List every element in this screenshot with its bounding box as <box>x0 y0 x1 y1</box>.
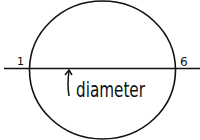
label-right-6: 6 <box>180 55 188 69</box>
arrow-icon <box>65 70 72 96</box>
diameter-label: diameter <box>76 78 145 102</box>
circle <box>30 1 176 139</box>
label-left-1: 1 <box>17 55 24 68</box>
diameter-diagram: 1 6 diameter <box>0 0 200 140</box>
